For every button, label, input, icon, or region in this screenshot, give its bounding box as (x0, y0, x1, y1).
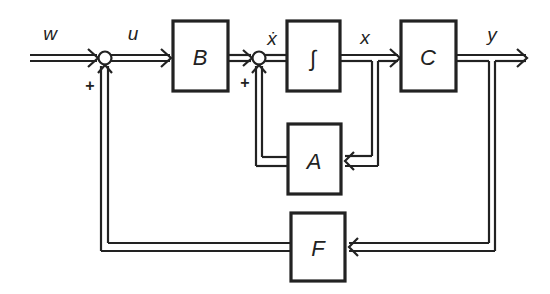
signal-label-w: w (43, 23, 58, 44)
summing-junction-1 (99, 52, 112, 65)
feedback-x-to-A-line (345, 61, 378, 170)
signal-w-line (30, 49, 98, 67)
signal-label-xdot: ẋ (266, 28, 278, 49)
signal-u-line (111, 49, 171, 67)
signal-label-u: u (128, 23, 139, 44)
sum1-plus-sign: + (85, 77, 94, 94)
block-F-label: F (311, 236, 326, 261)
block-integrator: ∫ (287, 21, 340, 91)
signal-xdot-line (265, 55, 286, 61)
signal-b-output-line (229, 50, 252, 66)
block-B: B (173, 21, 228, 91)
block-C-label: C (420, 45, 436, 70)
block-C: C (401, 21, 456, 91)
signal-x-line (341, 49, 400, 67)
block-A: A (288, 124, 341, 194)
block-B-label: B (193, 45, 208, 70)
block-A-label: A (305, 149, 322, 174)
feedback-A-to-sum2-line (252, 65, 287, 166)
signal-label-y: y (485, 24, 498, 45)
sum2-plus-sign: + (240, 74, 249, 91)
block-diagram: .dl { stroke: #222; stroke-width: 2.2; f… (0, 0, 550, 294)
block-F: F (291, 213, 345, 281)
signal-label-x: x (359, 27, 371, 48)
signal-y-line (457, 49, 527, 67)
summing-junction-2 (253, 52, 266, 65)
